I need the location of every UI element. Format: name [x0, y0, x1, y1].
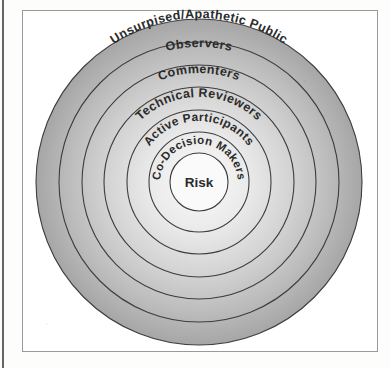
- center-label-risk: Risk: [185, 175, 214, 190]
- concentric-circles-diagram: Unsurpised/Apathetic Public Observers Co…: [0, 0, 391, 368]
- diagram-canvas: Unsurpised/Apathetic Public Observers Co…: [0, 0, 391, 368]
